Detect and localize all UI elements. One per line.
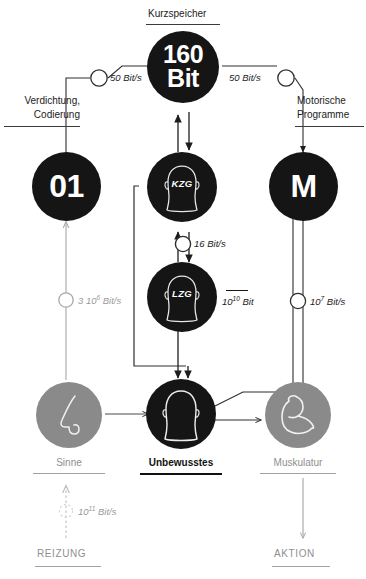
caption-senses: Sinne (34, 457, 104, 470)
caption-reizung: REIZUNG (37, 548, 86, 561)
label-codierung: Codierung (4, 109, 80, 122)
senses-underline (33, 473, 105, 474)
label-motorische: Motorische (297, 95, 346, 108)
kzg-label: KZG (147, 178, 217, 189)
flexed-biceps-icon (265, 382, 331, 448)
binary-label: 01 (49, 171, 84, 201)
rate-kzg-lzg: 16 Bit/s (194, 238, 226, 249)
lzg-capacity-bar (226, 290, 248, 291)
rate-motor-output: 107 Bit/s (310, 295, 345, 307)
programme-underline (295, 126, 364, 127)
node-kurzspeicher[interactable]: 160 Bit (147, 31, 219, 103)
caption-unconscious: Unbewusstes (139, 457, 223, 470)
node-unconscious[interactable] (146, 379, 216, 449)
node-muscles[interactable] (265, 382, 331, 448)
label-verdichtung: Verdichtung, (4, 95, 80, 108)
node-kzg[interactable]: KZG (147, 152, 217, 222)
node-binary-code[interactable]: 01 (32, 152, 101, 221)
kurzspeicher-caption: Kurzspeicher (148, 8, 206, 19)
caption-muscles: Muskulatur (261, 457, 335, 470)
kurzspeicher-value: 160 Bit (163, 43, 203, 91)
ear-nose-icon (36, 382, 102, 448)
kurzspeicher-underline (146, 24, 220, 25)
codierung-underline (4, 126, 80, 127)
caption-aktion: AKTION (274, 548, 315, 561)
rate-left-50: 50 Bit/s (110, 72, 142, 83)
motor-label: M (290, 171, 316, 201)
node-lzg[interactable]: LZG (147, 262, 217, 332)
rate-right-50: 50 Bit/s (229, 72, 261, 83)
node-motor[interactable]: M (269, 152, 338, 221)
rate-stimulus: 1011 Bit/s (78, 505, 116, 517)
lzg-label: LZG (147, 288, 217, 299)
node-senses[interactable] (36, 382, 102, 448)
muscles-underline (260, 473, 336, 474)
head-outline-icon (146, 379, 216, 449)
label-programme: Programme (297, 109, 349, 122)
rate-lzg-capacity: 1010 Bit (222, 295, 254, 307)
reizung-underline (35, 566, 101, 567)
aktion-underline (272, 566, 330, 567)
rate-sensory-input: 3 106 Bit/s (78, 294, 121, 306)
diagram-canvas: 160 Bit 01 M KZG LZG (0, 0, 366, 579)
unconscious-underline (140, 473, 222, 475)
